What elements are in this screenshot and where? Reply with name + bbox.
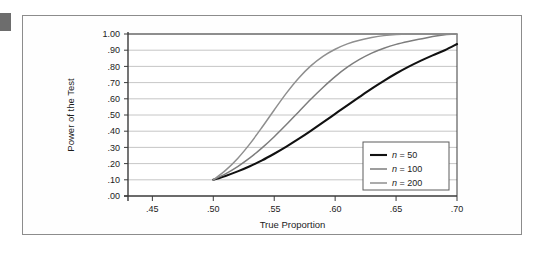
legend-label: n = 100 (392, 164, 422, 174)
chart-legend: n = 50n = 100n = 200 (363, 142, 449, 190)
y-tick-label: .70 (107, 78, 120, 88)
x-tick-label: .60 (329, 204, 342, 214)
x-axis-title: True Proportion (260, 219, 326, 230)
legend-label: n = 200 (392, 178, 422, 188)
y-tick-labels-group: .00.10.20.30.40.50.60.70.80.901.00 (102, 29, 120, 201)
y-axis-title: Power of the Test (65, 78, 76, 152)
y-tick-label: .50 (107, 110, 120, 120)
figure-page: .00.10.20.30.40.50.60.70.80.901.00 .45.5… (0, 0, 537, 256)
x-tick-label: .55 (268, 204, 281, 214)
y-tick-label: .10 (107, 175, 120, 185)
y-tick-label: .90 (107, 45, 120, 55)
y-tick-label: 1.00 (102, 29, 120, 39)
power-curve-chart: .00.10.20.30.40.50.60.70.80.901.00 .45.5… (0, 0, 537, 256)
y-tick-label: .80 (107, 62, 120, 72)
y-tick-label: .00 (107, 191, 120, 201)
y-tick-label: .20 (107, 159, 120, 169)
y-tick-label: .30 (107, 143, 120, 153)
x-tick-label: .70 (451, 204, 464, 214)
y-tick-label: .60 (107, 94, 120, 104)
x-tick-labels-group: .45.50.55.60.65.70 (146, 204, 463, 214)
y-tick-label: .40 (107, 126, 120, 136)
legend-label: n = 50 (392, 150, 417, 160)
x-tick-label: .50 (207, 204, 220, 214)
x-tick-label: .65 (390, 204, 403, 214)
x-tick-label: .45 (146, 204, 159, 214)
